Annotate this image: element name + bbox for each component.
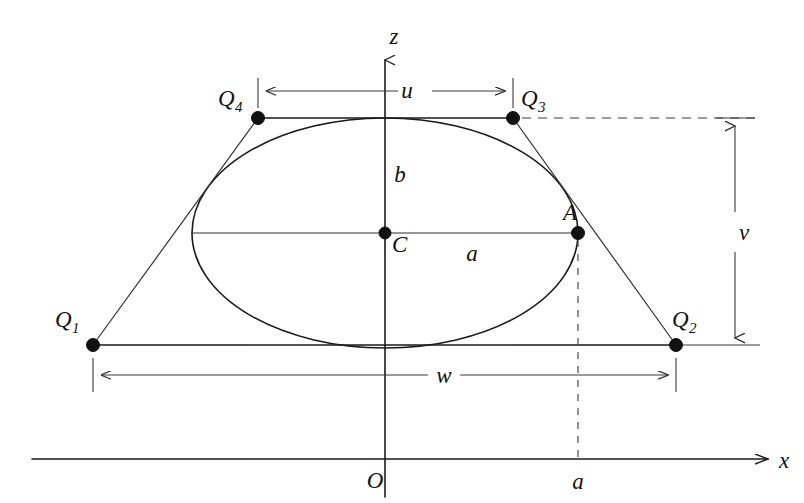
- label-a-point: A: [561, 200, 578, 225]
- label-q1: Q 1: [55, 307, 80, 336]
- label-q4: Q 4: [218, 86, 243, 115]
- label-dimension-v: v: [739, 220, 750, 245]
- label-semi-minor-b: b: [394, 162, 406, 187]
- label-q3-subscript: 3: [537, 99, 546, 115]
- label-z-axis: z: [389, 24, 399, 49]
- label-q2-letter: Q: [672, 307, 689, 332]
- point-dot-c: [379, 227, 391, 239]
- tangent-line-right: [513, 118, 676, 345]
- label-dimension-u: u: [401, 78, 413, 103]
- label-x-axis: x: [778, 448, 790, 473]
- tangent-line-left: [93, 118, 258, 345]
- point-dot-q4: [252, 112, 265, 125]
- label-q3: Q 3: [521, 86, 546, 115]
- label-origin-o: O: [367, 468, 384, 493]
- label-x-tick-a: a: [572, 469, 584, 494]
- label-q4-subscript: 4: [235, 99, 243, 115]
- label-q2: Q 2: [672, 307, 697, 336]
- figure-root: Q 1 Q 2 Q 3 Q 4 C A u w v b a O a x z: [0, 0, 804, 503]
- label-q1-subscript: 1: [72, 320, 80, 336]
- label-q3-letter: Q: [521, 86, 538, 111]
- label-q2-subscript: 2: [689, 320, 697, 336]
- label-q1-letter: Q: [55, 307, 72, 332]
- point-dot-a: [572, 227, 585, 240]
- geometry-diagram-svg: Q 1 Q 2 Q 3 Q 4 C A u w v b a O a x z: [0, 0, 804, 503]
- label-semi-major-a: a: [466, 241, 478, 266]
- label-dimension-w: w: [436, 363, 452, 388]
- point-dot-q2: [670, 339, 683, 352]
- point-dot-q1: [87, 339, 100, 352]
- label-c: C: [392, 232, 408, 257]
- label-q4-letter: Q: [218, 86, 235, 111]
- point-dot-q3: [507, 112, 520, 125]
